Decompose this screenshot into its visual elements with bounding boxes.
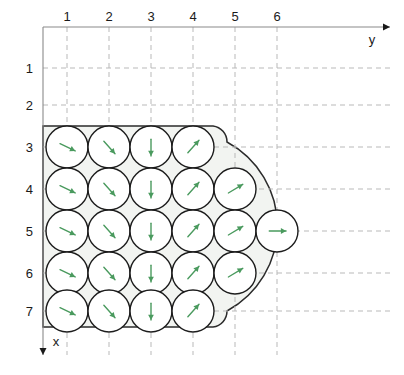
x-tick-label-1: 1 (26, 61, 33, 76)
x-axis-label: x (53, 334, 60, 349)
y-tick-label-6: 6 (273, 9, 280, 24)
diagram-canvas: 1234561234567yx (0, 0, 404, 375)
y-tick-label-1: 1 (63, 9, 70, 24)
x-tick-label-5: 5 (26, 224, 33, 239)
x-tick-label-3: 3 (26, 140, 33, 155)
y-tick-label-2: 2 (105, 9, 112, 24)
x-tick-label-7: 7 (26, 304, 33, 319)
y-axis-label: y (369, 32, 376, 47)
x-tick-label-6: 6 (26, 266, 33, 281)
y-tick-label-5: 5 (231, 9, 238, 24)
y-tick-label-4: 4 (189, 9, 196, 24)
circle-packing-diagram: 1234561234567yx (0, 0, 404, 375)
x-tick-label-4: 4 (26, 182, 33, 197)
y-tick-label-3: 3 (147, 9, 154, 24)
x-tick-label-2: 2 (26, 98, 33, 113)
x-axis-arrowhead (40, 348, 47, 355)
y-axis-arrowhead (383, 24, 390, 31)
